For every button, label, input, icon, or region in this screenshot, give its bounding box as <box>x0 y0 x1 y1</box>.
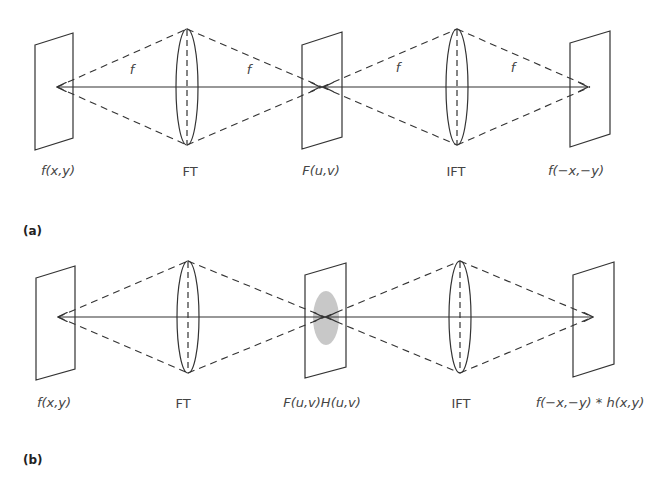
ft-lens-label: FT <box>175 396 190 411</box>
ft-lens-label: FT <box>182 164 197 179</box>
panel-b-label: (b) <box>23 453 43 467</box>
fourier-plane <box>302 32 342 149</box>
focal-length-label: f <box>130 62 135 77</box>
focal-length-label: f <box>396 60 401 75</box>
input-plane <box>35 33 73 150</box>
input-plane-label: f(x,y) <box>37 395 71 410</box>
output-plane <box>570 31 610 147</box>
output-plane-label: f(−x,−y) * h(x,y) <box>536 395 645 410</box>
optical-4f-diagram <box>0 0 663 486</box>
ift-lens-label: IFT <box>446 164 465 179</box>
output-plane-label: f(−x,−y) <box>548 163 604 178</box>
filter-plane-label: F(u,v)H(u,v) <box>283 395 361 410</box>
output-plane <box>573 262 614 377</box>
input-plane <box>36 266 75 380</box>
panel-a-label: (a) <box>23 224 42 238</box>
focal-length-label: f <box>511 60 516 75</box>
focal-length-label: f <box>247 62 252 77</box>
panel-a-diagram <box>35 29 610 150</box>
input-plane-label: f(x,y) <box>41 163 75 178</box>
fourier-plane-label: F(u,v) <box>302 163 340 178</box>
panel-b-diagram <box>36 261 614 380</box>
ift-lens-label: IFT <box>451 396 470 411</box>
